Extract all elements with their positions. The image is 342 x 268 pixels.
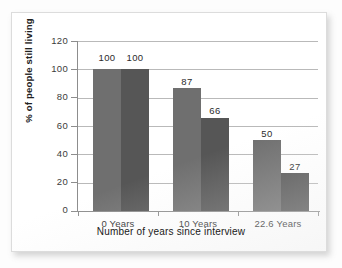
data-label-22.6years-series2: 27 [281, 162, 309, 172]
y-tick-label-wrap: 80 [28, 92, 68, 102]
y-tick-label-40: 40 [34, 149, 68, 159]
bar-22.6years-series1 [253, 140, 281, 211]
y-tick-label-wrap: 40 [28, 149, 68, 159]
y-tick-label-wrap: 60 [28, 121, 68, 131]
x-tick-mark [318, 211, 319, 216]
data-label-0years-series2: 100 [121, 53, 149, 63]
gridline-120 [78, 41, 318, 42]
y-tick-label-60: 60 [34, 121, 68, 131]
plot-area: 100 100 87 66 50 27 [78, 41, 318, 211]
scanned-page: % of people still living 120 100 80 60 4… [0, 0, 342, 268]
y-tick-label-80: 80 [34, 92, 68, 102]
y-tick-label-20: 20 [34, 177, 68, 187]
data-label-0years-series1: 100 [93, 53, 121, 63]
y-tick-label-wrap: 120 [28, 36, 68, 46]
bar-22.6years-series2 [281, 173, 309, 211]
y-tick-label-100: 100 [34, 64, 68, 74]
bar-0years-series1 [93, 69, 121, 211]
y-tick-label-wrap: 100 [28, 64, 68, 74]
y-tick-label-0: 0 [34, 205, 68, 215]
x-axis-title: Number of years since interview [0, 226, 342, 237]
y-tick-label-wrap: 0 [28, 205, 68, 215]
data-label-10years-series1: 87 [173, 77, 201, 87]
x-tick-mark [158, 211, 159, 216]
y-tick-label-wrap: 20 [28, 177, 68, 187]
x-tick-mark [78, 211, 79, 216]
bar-10years-series1 [173, 88, 201, 211]
y-tick-label-120: 120 [34, 36, 68, 46]
data-label-22.6years-series1: 50 [253, 129, 281, 139]
chart-card: % of people still living 120 100 80 60 4… [11, 12, 327, 252]
gridline-0 [78, 211, 318, 212]
bar-10years-series2 [201, 118, 229, 212]
bar-0years-series2 [121, 69, 149, 211]
data-label-10years-series2: 66 [201, 106, 229, 116]
x-tick-mark [238, 211, 239, 216]
